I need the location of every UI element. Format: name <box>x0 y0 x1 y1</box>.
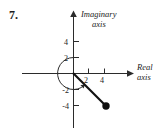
complex-number-point <box>102 102 109 109</box>
real-axis-arrowhead <box>127 70 134 77</box>
tick-label-real-4: 4 <box>100 76 104 85</box>
tick-label-imag-neg2: -2 <box>62 86 69 95</box>
imaginary-axis-group <box>70 11 77 129</box>
tick-label-imag-4: 4 <box>64 38 68 47</box>
real-axis-label-line1: Real <box>136 62 153 72</box>
tick-label-imag-2: 2 <box>64 54 68 63</box>
plot-canvas: 2 4 4 2 -2 -4 Imaginary axis Real axis <box>0 0 162 140</box>
real-axis-group <box>22 70 134 77</box>
complex-plane-figure: 7. 2 4 4 2 -2 -4 Imag <box>0 0 162 140</box>
imaginary-axis-label-line2: axis <box>92 19 106 29</box>
tick-label-imag-neg4: -4 <box>62 102 69 111</box>
real-axis-label-line2: axis <box>137 72 151 82</box>
imaginary-axis-label-line1: Imaginary <box>80 9 117 19</box>
real-axis-ticks <box>89 69 105 74</box>
imaginary-axis-arrowhead <box>70 11 77 18</box>
